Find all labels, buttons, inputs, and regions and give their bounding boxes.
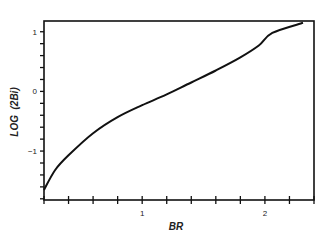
y-tick-label: −1 [28, 147, 38, 156]
data-line [44, 23, 303, 190]
x-tick-label: 2 [263, 209, 268, 218]
plot-frame [44, 21, 314, 200]
chart: 12 10−1 BR LOG (2Bi) [0, 0, 326, 239]
y-tick-label: 0 [33, 87, 38, 96]
x-tick-label: 1 [140, 209, 145, 218]
y-tick-label: 1 [33, 28, 38, 37]
x-axis-tick-labels: 12 [140, 209, 268, 218]
y-axis-title: LOG (2Bi) [9, 87, 20, 137]
y-axis-tick-labels: 10−1 [28, 28, 38, 156]
x-axis-title: BR [169, 221, 184, 232]
